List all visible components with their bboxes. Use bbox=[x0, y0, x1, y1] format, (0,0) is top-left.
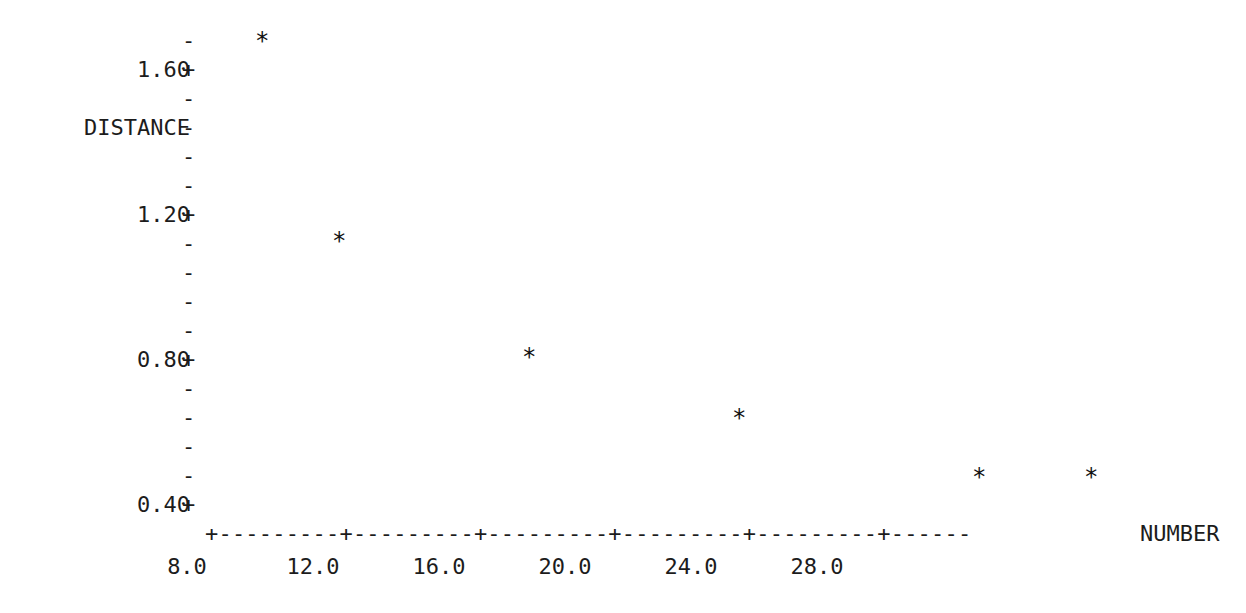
y-axis-title: DISTANCE bbox=[48, 117, 190, 139]
y-axis-tick-0-40: + bbox=[182, 494, 195, 516]
y-axis-tick-row-10: - bbox=[182, 320, 195, 342]
character-plot: - 1.60 + - DISTANCE - - - 1.20 + - - - -… bbox=[0, 0, 1246, 613]
y-axis-tick-1-20: + bbox=[182, 204, 195, 226]
data-point: * bbox=[1084, 465, 1098, 489]
y-axis-tick-row-8: - bbox=[182, 262, 195, 284]
x-axis-tick-label-12: 12.0 bbox=[277, 556, 349, 578]
data-point: * bbox=[255, 29, 269, 53]
y-axis-label-0-40: 0.40 bbox=[58, 494, 190, 516]
y-axis-tick-row-4: - bbox=[182, 146, 195, 168]
y-axis-tick-row-2: - bbox=[182, 88, 195, 110]
y-axis-tick-1-60: + bbox=[182, 59, 195, 81]
y-axis-tick-row-12: - bbox=[182, 378, 195, 400]
y-axis-label-1-20: 1.20 bbox=[58, 204, 190, 226]
y-axis-tick-row-3: - bbox=[182, 117, 195, 139]
y-axis-tick-row-0: - bbox=[182, 30, 195, 52]
y-axis-tick-row-9: - bbox=[182, 291, 195, 313]
data-point: * bbox=[732, 406, 746, 430]
y-axis-label-1-60: 1.60 bbox=[58, 59, 190, 81]
data-point: * bbox=[972, 465, 986, 489]
x-axis-tick-label-8: 8.0 bbox=[151, 556, 223, 578]
x-axis-title: NUMBER bbox=[1140, 523, 1219, 545]
y-axis-tick-row-5: - bbox=[182, 175, 195, 197]
x-axis-line: +---------+---------+---------+---------… bbox=[205, 523, 971, 545]
x-axis-tick-label-28: 28.0 bbox=[781, 556, 853, 578]
y-axis-label-0-80: 0.80 bbox=[58, 349, 190, 371]
y-axis-tick-row-15: - bbox=[182, 465, 195, 487]
x-axis-tick-label-24: 24.0 bbox=[655, 556, 727, 578]
y-axis-tick-row-7: - bbox=[182, 233, 195, 255]
data-point: * bbox=[522, 345, 536, 369]
y-axis-tick-row-13: - bbox=[182, 407, 195, 429]
x-axis-tick-label-16: 16.0 bbox=[403, 556, 475, 578]
x-axis-tick-label-20: 20.0 bbox=[529, 556, 601, 578]
y-axis-tick-row-14: - bbox=[182, 436, 195, 458]
y-axis-tick-0-80: + bbox=[182, 349, 195, 371]
data-point: * bbox=[332, 229, 346, 253]
